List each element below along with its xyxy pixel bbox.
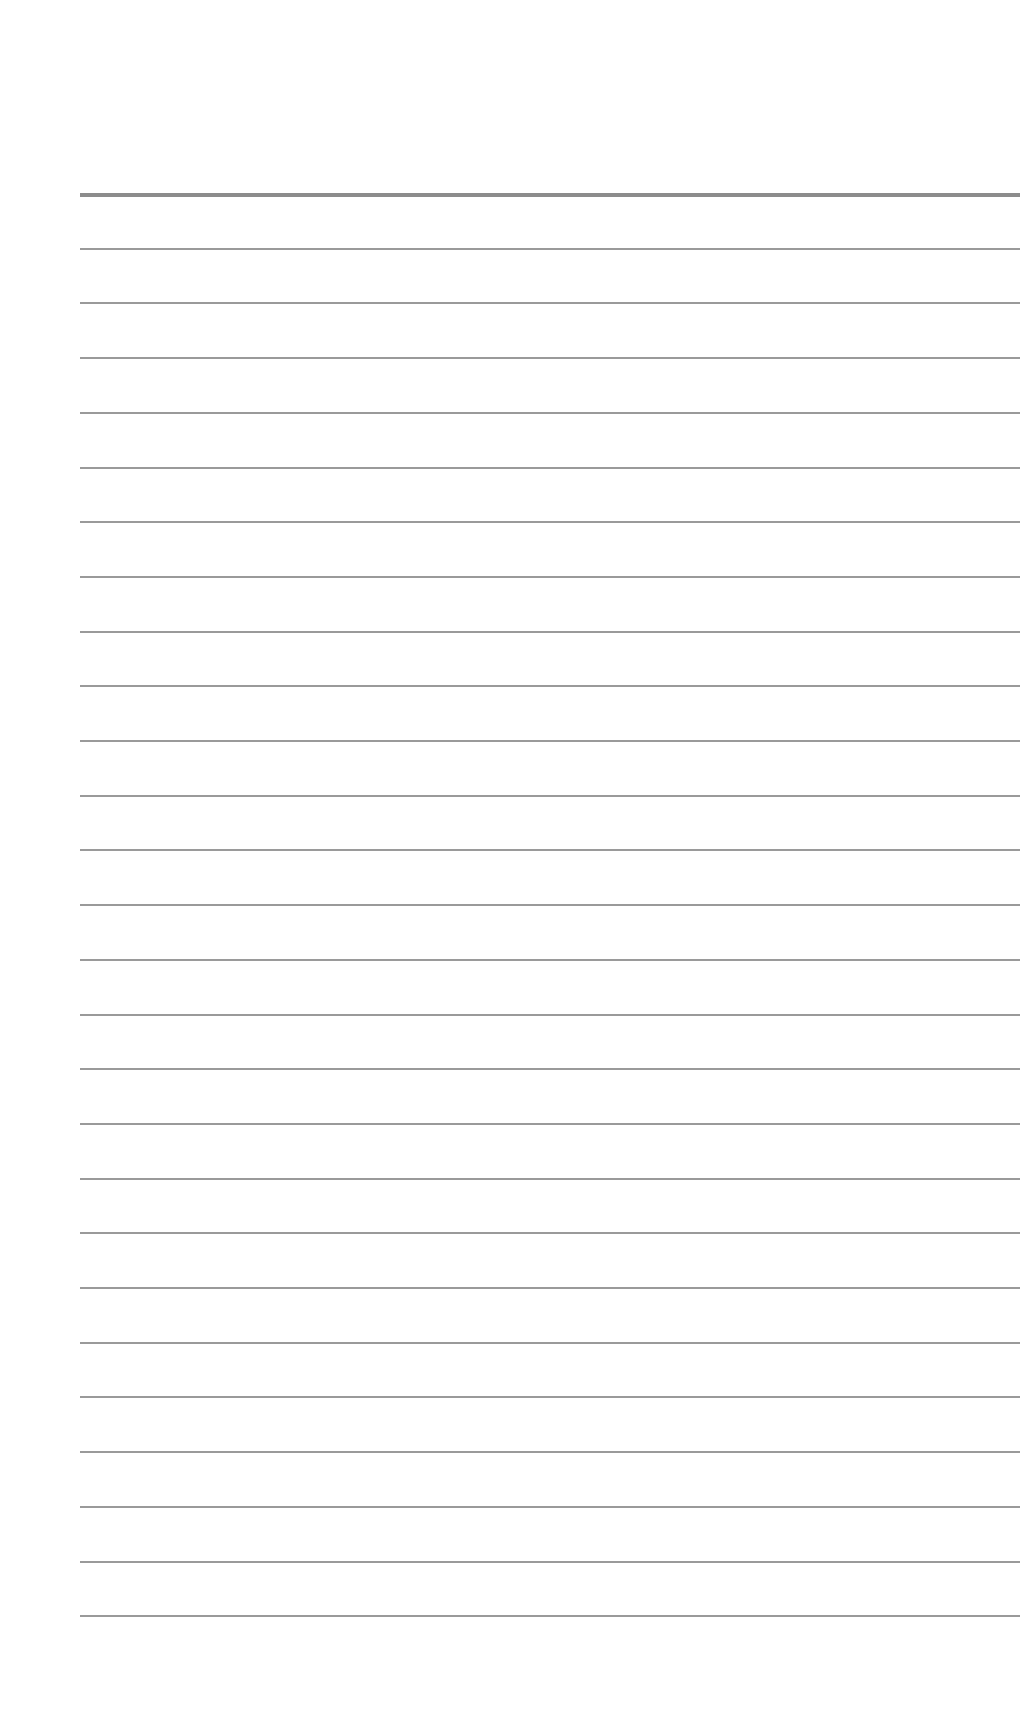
rule-line	[80, 740, 1020, 742]
rule-line	[80, 302, 1020, 304]
rule-line	[80, 795, 1020, 797]
rule-line	[80, 1232, 1020, 1234]
rule-line	[80, 1178, 1020, 1180]
rule-line	[80, 1561, 1020, 1563]
rule-line	[80, 1451, 1020, 1453]
rule-line	[80, 1068, 1020, 1070]
rule-line	[80, 904, 1020, 906]
rule-line	[80, 412, 1020, 414]
rule-line	[80, 1287, 1020, 1289]
rule-line	[80, 521, 1020, 523]
rule-line	[80, 959, 1020, 961]
rule-line	[80, 1506, 1020, 1508]
rule-line	[80, 1123, 1020, 1125]
rule-line	[80, 248, 1020, 250]
rule-line	[80, 631, 1020, 633]
rule-line	[80, 849, 1020, 851]
rule-line	[80, 576, 1020, 578]
rule-line	[80, 467, 1020, 469]
rule-line	[80, 357, 1020, 359]
rule-line	[80, 1342, 1020, 1344]
rule-line	[80, 1014, 1020, 1016]
rule-line	[80, 685, 1020, 687]
rule-line	[80, 1615, 1020, 1617]
header-rule-line	[80, 193, 1020, 197]
rule-line	[80, 1396, 1020, 1398]
